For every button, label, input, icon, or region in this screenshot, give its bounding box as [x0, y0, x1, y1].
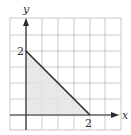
y-axis-label: y — [22, 3, 30, 16]
y-axis-arrow-icon — [23, 18, 29, 26]
x-axis-arrow-icon — [111, 112, 119, 118]
graph-figure: y x 2 2 — [0, 0, 131, 135]
y-tick-label: 2 — [17, 45, 24, 58]
x-axis-label: x — [122, 109, 129, 122]
x-tick-label: 2 — [85, 117, 92, 130]
